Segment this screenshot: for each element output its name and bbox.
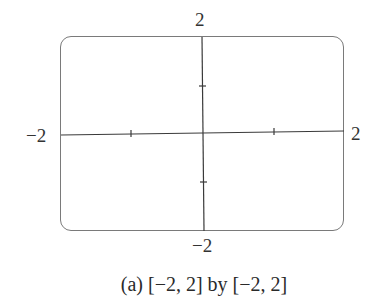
y-axis <box>202 37 204 231</box>
coordinate-axes <box>0 0 374 307</box>
figure-caption: (a) [−2, 2] by [−2, 2] <box>0 273 374 296</box>
x-max-label: 2 <box>351 124 361 143</box>
x-min-label: −2 <box>26 126 46 145</box>
y-min-label: −2 <box>192 236 212 255</box>
y-max-label: 2 <box>195 10 205 29</box>
